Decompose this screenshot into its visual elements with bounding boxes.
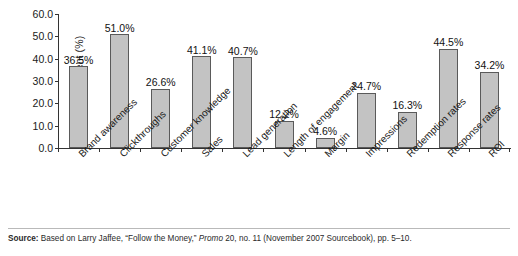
x-axis-label-slot: Length of engagement xyxy=(263,150,304,224)
x-axis-label-slot: Sales xyxy=(181,150,222,224)
y-axis-tick-label: 40.0 xyxy=(13,53,53,64)
source-note: Source: Based on Larry Jaffee, “Follow t… xyxy=(8,234,513,244)
y-axis-tick-label: 50.0 xyxy=(13,31,53,42)
y-axis-tick-label: 30.0 xyxy=(13,76,53,87)
source-label: Source: xyxy=(8,234,38,243)
x-axis-label-slot: Brand awareness xyxy=(58,150,99,224)
bar-value-label: 51.0% xyxy=(105,23,135,34)
source-text-1: Based on Larry Jaffee, “Follow the Money… xyxy=(38,234,198,243)
bar-chart-figure: Percent (%) 0.010.020.030.040.050.060.0 … xyxy=(0,0,518,256)
bar-value-label: 34.2% xyxy=(475,60,505,71)
y-axis-tick-label: 10.0 xyxy=(13,120,53,131)
bar-value-label: 41.1% xyxy=(187,45,217,56)
x-axis-label-slot: Lead generation xyxy=(222,150,263,224)
footer-divider xyxy=(8,228,510,229)
bar-value-label: 36.5% xyxy=(64,55,94,66)
x-axis-label-slot: Customer knowledge xyxy=(140,150,181,224)
bar-slot: 36.5% xyxy=(58,14,99,148)
bar-slot: 40.7% xyxy=(222,14,263,148)
bar-value-label: 44.5% xyxy=(434,37,464,48)
bar: 51.0% xyxy=(110,34,129,148)
bar: 40.7% xyxy=(233,57,252,148)
y-axis-tick-label: 20.0 xyxy=(13,98,53,109)
bar-value-label: 16.3% xyxy=(392,100,422,111)
x-axis-label-slot: Margin xyxy=(305,150,346,224)
y-axis-tick-label: 0.0 xyxy=(13,143,53,154)
source-text-2: 20, no. 11 (November 2007 Sourcebook), p… xyxy=(223,234,412,243)
bar: 44.5% xyxy=(439,49,458,148)
x-axis-label-slot: Redemption rates xyxy=(387,150,428,224)
x-axis-label-slot: ROI xyxy=(469,150,510,224)
y-axis-tick-label: 60.0 xyxy=(13,9,53,20)
x-axis-label-slot: Clickthroughs xyxy=(99,150,140,224)
bar-value-label: 26.6% xyxy=(146,77,176,88)
x-axis-label-slot: Response rates xyxy=(428,150,469,224)
bar-value-label: 40.7% xyxy=(228,46,258,57)
bar: 24.7% xyxy=(357,93,376,148)
source-publication: Promo xyxy=(199,234,223,243)
x-axis-label-slot: Impressions xyxy=(346,150,387,224)
bar: 36.5% xyxy=(69,66,88,148)
x-axis-category-labels: Brand awarenessClickthroughsCustomer kno… xyxy=(58,150,510,224)
